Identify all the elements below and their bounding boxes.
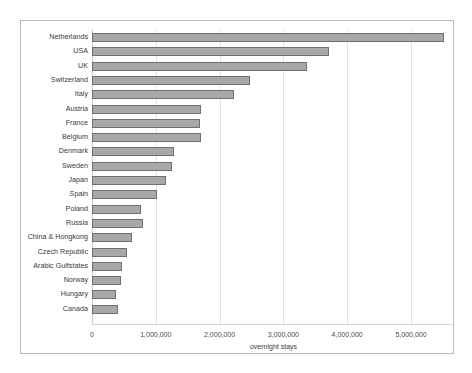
category-label: Netherlands: [49, 30, 88, 44]
bar-row: Hungary: [92, 288, 455, 302]
bar: [92, 305, 118, 314]
category-label: Poland: [66, 202, 88, 216]
category-label: Japan: [68, 173, 88, 187]
bar-row: Sweden: [92, 160, 455, 174]
bar: [92, 162, 172, 171]
category-label: Denmark: [59, 144, 88, 158]
bar: [92, 248, 127, 257]
plot-area: NetherlandsUSAUKSwitzerlandItalyAustriaF…: [92, 29, 455, 324]
chart-frame: NetherlandsUSAUKSwitzerlandItalyAustriaF…: [20, 20, 454, 354]
bar-row: Japan: [92, 174, 455, 188]
bar: [92, 47, 329, 56]
category-label: China & Hongkong: [28, 230, 88, 244]
x-tick-label: 3,000,000: [268, 331, 299, 338]
bar: [92, 276, 121, 285]
bar: [92, 119, 200, 128]
bar: [92, 233, 132, 242]
category-label: Switzerland: [51, 73, 88, 87]
category-label: Norway: [64, 273, 88, 287]
bar-row: Netherlands: [92, 31, 455, 45]
bar-row: Russia: [92, 217, 455, 231]
bar: [92, 133, 201, 142]
bar-row: China & Hongkong: [92, 231, 455, 245]
bar-row: Switzerland: [92, 74, 455, 88]
bar-row: USA: [92, 45, 455, 59]
category-label: Italy: [75, 87, 88, 101]
bar: [92, 290, 116, 299]
bar: [92, 190, 157, 199]
bar-row: Denmark: [92, 145, 455, 159]
bar: [92, 105, 201, 114]
bar-row: Italy: [92, 88, 455, 102]
bar-row: Canada: [92, 303, 455, 317]
category-label: Arabic Gulfstates: [33, 259, 88, 273]
category-label: Hungary: [61, 287, 88, 301]
bar-series: NetherlandsUSAUKSwitzerlandItalyAustriaF…: [92, 29, 455, 324]
category-label: Spain: [70, 187, 88, 201]
x-tick-label: 5,000,000: [395, 331, 426, 338]
bar-row: Poland: [92, 203, 455, 217]
bar: [92, 90, 234, 99]
bar: [92, 176, 166, 185]
category-label: Belgium: [62, 130, 88, 144]
category-label: Canada: [63, 302, 88, 316]
bar: [92, 205, 141, 214]
bar-row: Arabic Gulfstates: [92, 260, 455, 274]
bar-row: Belgium: [92, 131, 455, 145]
x-tick-label: 2,000,000: [204, 331, 235, 338]
bar-row: Spain: [92, 188, 455, 202]
x-axis-line: [92, 324, 455, 325]
category-label: USA: [73, 44, 88, 58]
category-label: Sweden: [62, 159, 88, 173]
bar: [92, 33, 444, 42]
category-label: Czech Republic: [38, 245, 88, 259]
bar: [92, 76, 250, 85]
bar: [92, 62, 307, 71]
bar-row: Czech Republic: [92, 246, 455, 260]
x-tick-label: 1,000,000: [140, 331, 171, 338]
bar-row: Austria: [92, 103, 455, 117]
category-label: Russia: [66, 216, 88, 230]
category-label: UK: [78, 59, 88, 73]
bar: [92, 219, 143, 228]
bar-row: Norway: [92, 274, 455, 288]
category-label: Austria: [66, 102, 88, 116]
bar-row: UK: [92, 60, 455, 74]
bar: [92, 262, 122, 271]
x-axis-title: overnight stays: [92, 343, 455, 350]
x-tick-label: 4,000,000: [332, 331, 363, 338]
bar: [92, 147, 174, 156]
x-tick-label: 0: [90, 331, 94, 338]
bar-row: France: [92, 117, 455, 131]
category-label: France: [66, 116, 88, 130]
